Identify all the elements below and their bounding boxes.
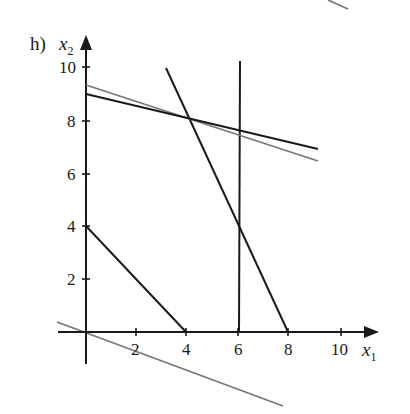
stray-line-segment (328, 0, 348, 9)
y-tick-label: 4 (67, 217, 76, 236)
x-axis (58, 326, 379, 338)
y-axis (80, 35, 92, 364)
y-tick-label: 6 (67, 165, 76, 184)
y-tick-labels: 10 8 6 4 2 (59, 58, 76, 289)
x-tick-label: 2 (131, 340, 140, 359)
x-tick-labels: 2 4 6 8 10 (131, 340, 348, 359)
x-tick-label: 8 (284, 340, 293, 359)
constraint-line-x1-eq-6 (239, 61, 240, 332)
x-axis-label: x1 (361, 339, 376, 364)
x-tick-label: 10 (331, 340, 348, 359)
y-axis-label: x2 (58, 33, 73, 58)
panel-label: h) (30, 33, 46, 55)
objective-line (57, 322, 283, 406)
constraint-line-2x1-plus-x2-eq-16 (166, 68, 288, 332)
x-tick-label: 4 (182, 340, 191, 359)
linear-programming-chart: h) x2 x1 10 8 6 4 2 2 4 6 8 10 (0, 0, 410, 414)
x-axis-arrow-icon (364, 326, 379, 338)
y-axis-arrow-icon (80, 35, 92, 50)
y-tick-label: 8 (67, 112, 76, 131)
y-tick-label: 2 (67, 270, 76, 289)
x-tick-label: 6 (234, 340, 243, 359)
gray-line-x1-plus-3x2-eq-28 (86, 85, 318, 161)
constraint-line-x1-plus-4x2-eq-36 (86, 94, 318, 149)
constraint-line-x1-plus-x2-eq-4 (86, 226, 186, 332)
y-tick-label: 10 (59, 58, 76, 77)
